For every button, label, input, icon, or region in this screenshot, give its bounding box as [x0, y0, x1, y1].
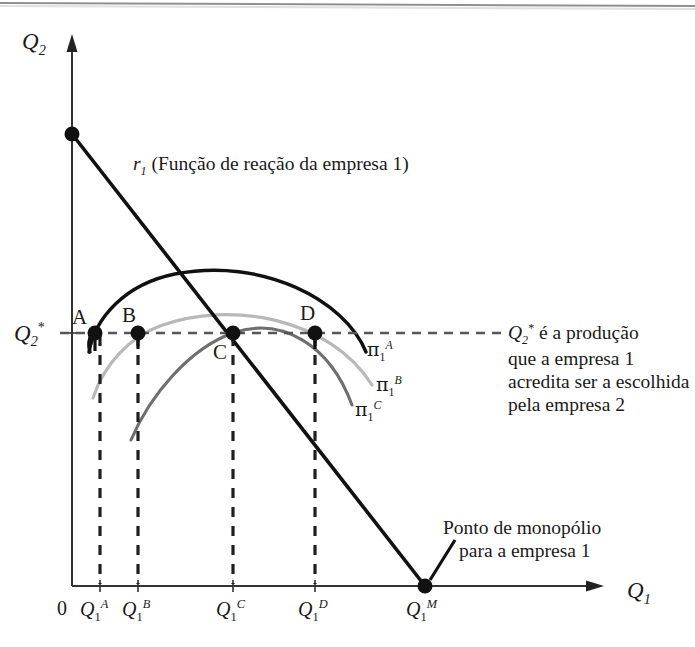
x-axis-arrowhead: [586, 581, 604, 592]
point-label-a: A: [72, 305, 87, 330]
q2-star-note-line-4: pela empresa 2: [508, 393, 689, 416]
point-r1-intercept: [65, 127, 80, 142]
y-axis-label: Q2: [22, 28, 46, 58]
x-tick-label-d: Q1D: [298, 597, 328, 624]
isoprofit-label-b: π1B: [376, 373, 402, 400]
q2-star-note-line-2: que a empresa 1: [508, 347, 689, 370]
isoprofit-label-c: π1C: [355, 398, 381, 425]
origin-label: 0: [57, 597, 67, 621]
point-label-d: D: [300, 301, 315, 326]
point-c-marker: [226, 326, 241, 341]
x-tick-label-a: Q1A: [80, 597, 108, 624]
reaction-function-symbol: r: [133, 153, 141, 174]
monopoly-note-line-1: Ponto de monopólio: [443, 516, 601, 539]
reaction-function-text: (Função de reação da empresa 1): [147, 153, 409, 174]
q2-star-note-line-1: Q2* é a produção: [508, 320, 689, 347]
point-monopoly-marker: [418, 579, 433, 594]
q2-star-note-line-3: acredita ser a escolhida: [508, 370, 689, 393]
isoprofit-label-a: π1A: [367, 338, 393, 365]
y-axis-arrowhead: [67, 34, 78, 52]
monopoly-point-note: Ponto de monopólio para a empresa 1: [443, 516, 601, 562]
y-axis-q2-star-label: Q2*: [14, 319, 45, 350]
q2-star-note-symbol: Q2*: [508, 322, 534, 343]
drop-lines-group: [100, 336, 315, 584]
x-tick-label-c: Q1C: [216, 597, 245, 624]
monopoly-note-line-2: para a empresa 1: [443, 539, 601, 562]
point-label-c: C: [213, 340, 227, 365]
q2-star-note: Q2* é a produção que a empresa 1 acredit…: [508, 320, 689, 416]
isoprofit-curve-c: [131, 328, 352, 440]
reaction-function-label: r1 (Função de reação da empresa 1): [133, 152, 409, 178]
point-label-b: B: [122, 303, 136, 328]
x-axis-label: Q1: [627, 577, 651, 607]
x-tick-label-m: Q1M: [406, 597, 437, 624]
x-tick-label-b: Q1B: [122, 597, 150, 624]
